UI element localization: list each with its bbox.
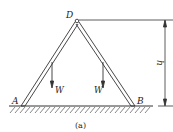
label-w-left: W: [55, 85, 65, 95]
label-b: B: [136, 96, 144, 106]
label-a: A: [11, 96, 19, 106]
rod-bd: [76, 22, 135, 106]
ladder-diagram: D A B W W h (a): [0, 0, 173, 132]
figure-caption: (a): [75, 121, 86, 130]
label-d: D: [65, 10, 73, 20]
ground: [9, 106, 153, 113]
rod-ad: [21, 22, 78, 106]
label-h: h: [155, 60, 165, 66]
ground-hatching: [10, 107, 150, 113]
hinge-d: [75, 19, 79, 23]
label-w-right: W: [94, 85, 104, 95]
